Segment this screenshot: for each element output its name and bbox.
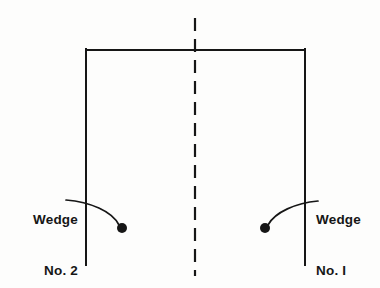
wedge-2-marker-dot: [117, 223, 127, 233]
wedge-2-callout-label: Wedge No. 2: [6, 177, 78, 288]
wedge-1-callout-label: Wedge No. I: [316, 177, 380, 288]
wedge-1-label-line-2: No. I: [316, 262, 380, 279]
wedge-1-leader-line: [268, 201, 318, 225]
wedge-1-marker-dot: [260, 223, 270, 233]
wedge-location-diagram: Wedge No. 2 Wedge No. I: [0, 0, 380, 288]
wedge-2-label-line-2: No. 2: [6, 262, 78, 279]
wedge-2-label-line-1: Wedge: [6, 211, 78, 228]
wedge-1-label-line-1: Wedge: [316, 211, 380, 228]
